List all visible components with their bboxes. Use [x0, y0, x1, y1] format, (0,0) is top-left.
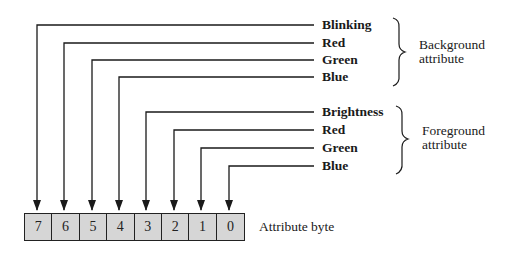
connector-bit-6	[64, 43, 314, 210]
connector-bit-2	[174, 130, 314, 210]
brace-foreground-icon	[396, 106, 408, 174]
brace-background-icon	[393, 18, 405, 86]
arrow-down-icon	[88, 200, 96, 211]
label-bit-6-red: Red	[322, 36, 345, 50]
label-bit-3-brightness: Brightness	[322, 105, 384, 119]
label-bit-4-blue: Blue	[322, 70, 348, 84]
label-bit-7-blinking: Blinking	[322, 18, 372, 32]
connector-bit-7	[37, 25, 314, 210]
arrow-down-icon	[33, 200, 41, 211]
arrow-down-icon	[115, 200, 123, 211]
bit-cell-1: 1	[189, 214, 216, 240]
bit-cell-6: 6	[52, 214, 79, 240]
connector-bit-5	[92, 60, 314, 210]
bit-cell-2: 2	[162, 214, 189, 240]
attribute-byte-diagram: Blinking Red Green Blue Brightness Red G…	[0, 0, 517, 259]
arrow-down-icon	[225, 200, 233, 211]
attribute-byte-label: Attribute byte	[259, 220, 334, 234]
attribute-byte-box: 7 6 5 4 3 2 1 0	[24, 213, 245, 241]
label-bit-0-blue: Blue	[322, 159, 348, 173]
bit-cell-4: 4	[107, 214, 134, 240]
connector-bit-1	[201, 148, 314, 210]
label-bit-2-red: Red	[322, 123, 345, 137]
arrow-down-icon	[170, 200, 178, 211]
bit-cell-0: 0	[217, 214, 244, 240]
connector-bit-0	[229, 166, 314, 210]
bit-cell-3: 3	[135, 214, 162, 240]
arrow-down-icon	[142, 200, 150, 211]
background-attribute-label: Background attribute	[419, 38, 485, 66]
bit-cell-5: 5	[80, 214, 107, 240]
connector-bit-4	[119, 77, 314, 210]
arrow-down-icon	[60, 200, 68, 211]
bit-cell-7: 7	[25, 214, 52, 240]
arrow-down-icon	[197, 200, 205, 211]
label-bit-5-green: Green	[322, 53, 358, 67]
connector-bit-3	[146, 112, 314, 210]
foreground-attribute-label: Foreground attribute	[422, 124, 485, 152]
label-bit-1-green: Green	[322, 141, 358, 155]
arrowheads	[33, 200, 233, 211]
